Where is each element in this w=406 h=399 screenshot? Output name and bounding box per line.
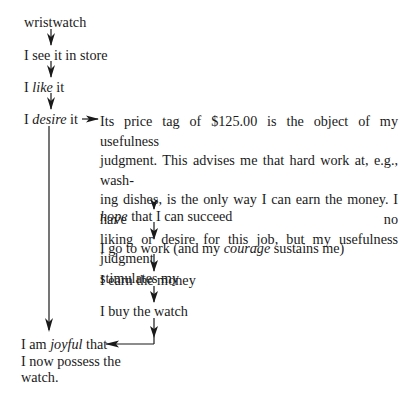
judgment-line: Its price tag of $125.00 is the object o… [100,112,398,151]
hope-emphasis: hope [100,208,128,224]
like-post: it [53,79,64,95]
node-like: I like it [24,79,64,95]
node-see-in-store: I see it in store [24,47,108,63]
work-pre: I go to work (and my [100,240,224,256]
node-joyful: I am joyful that [21,336,107,352]
node-wristwatch: wristwatch [24,14,86,30]
node-desire: I desire it [24,111,78,127]
work-emphasis: courage [224,240,271,256]
node-joyful-line2: I now possess the [21,353,121,369]
node-buy-watch: I buy the watch [100,303,188,319]
node-usefulness-judgment: Its price tag of $125.00 is the object o… [100,112,398,288]
work-post: sustains me) [270,240,344,256]
node-go-to-work: I go to work (and my courage sustains me… [100,240,344,256]
desire-emphasis: desire [32,111,66,127]
desire-post: it [66,111,77,127]
node-joyful-line3: watch. [21,369,58,385]
joyful-emphasis: joyful [50,336,82,352]
node-hope: hope that I can succeed [100,208,232,224]
node-earn-money: I earn the money [100,272,196,288]
joyful-pre: I am [21,336,50,352]
judgment-line: judgment. This advises me that hard work… [100,151,398,190]
like-emphasis: like [32,79,52,95]
hope-post: that I can succeed [128,208,233,224]
joyful-post: that [82,336,107,352]
